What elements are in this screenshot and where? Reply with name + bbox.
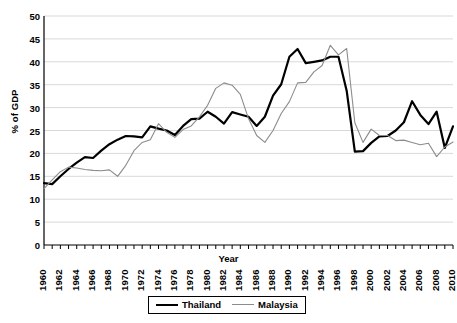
gdp-investment-line-chart: % of GDP 05101520253035404550 1960196219… — [0, 0, 457, 323]
y-tick-label: 15 — [18, 171, 40, 182]
y-tick-label: 5 — [18, 217, 40, 228]
x-tick-label: 1962 — [53, 269, 64, 291]
x-tick-label: 2000 — [364, 269, 375, 291]
x-tick-label: 1972 — [135, 269, 146, 291]
y-tick-label: 10 — [18, 194, 40, 205]
x-tick-label: 1960 — [37, 269, 48, 291]
x-tick-label: 1994 — [315, 269, 326, 291]
x-tick-label: 2008 — [430, 269, 441, 291]
y-tick-label: 45 — [18, 33, 40, 44]
x-tick-label: 1988 — [266, 269, 277, 291]
x-tick-label: 1976 — [168, 269, 179, 291]
legend-swatch-malaysia-icon — [232, 304, 254, 305]
y-tick-label: 25 — [18, 125, 40, 136]
legend-label-malaysia: Malaysia — [258, 299, 298, 310]
y-tick-label: 40 — [18, 56, 40, 67]
x-tick-label: 2006 — [413, 269, 424, 291]
legend-entry-thailand: Thailand — [156, 299, 221, 310]
y-tick-label: 50 — [18, 11, 40, 22]
y-tick-label: 30 — [18, 102, 40, 113]
series-line-malaysia — [44, 45, 453, 188]
x-tick-label: 1984 — [233, 269, 244, 291]
x-tick-label: 1966 — [86, 269, 97, 291]
legend-entry-malaysia: Malaysia — [232, 299, 298, 310]
x-tick-label: 1970 — [119, 269, 130, 291]
x-tick-label: 1990 — [282, 269, 293, 291]
x-tick-label: 2004 — [397, 269, 408, 291]
x-tick-label: 1968 — [102, 269, 113, 291]
x-tick-label: 1978 — [184, 269, 195, 291]
series-line-thailand — [44, 49, 453, 184]
x-tick-label: 1996 — [331, 269, 342, 291]
x-tick-label: 1998 — [348, 269, 359, 291]
chart-legend: Thailand Malaysia — [148, 296, 306, 314]
x-tick-label: 2010 — [446, 269, 457, 291]
plot-area — [44, 16, 453, 245]
x-tick-label: 1982 — [217, 269, 228, 291]
legend-label-thailand: Thailand — [182, 299, 221, 310]
y-tick-label: 0 — [18, 240, 40, 251]
x-tick-label: 1986 — [250, 269, 261, 291]
x-tick-label: 2002 — [381, 269, 392, 291]
x-tick-label: 1980 — [201, 269, 212, 291]
y-axis-tick-labels: 05101520253035404550 — [18, 16, 40, 245]
plot-svg — [44, 16, 453, 245]
y-tick-label: 20 — [18, 148, 40, 159]
x-tick-label: 1974 — [152, 269, 163, 291]
x-axis-title: Year — [0, 253, 457, 264]
y-tick-label: 35 — [18, 79, 40, 90]
legend-swatch-thailand-icon — [156, 304, 178, 306]
x-tick-label: 1992 — [299, 269, 310, 291]
data-series — [44, 45, 453, 188]
x-tick-label: 1964 — [70, 269, 81, 291]
